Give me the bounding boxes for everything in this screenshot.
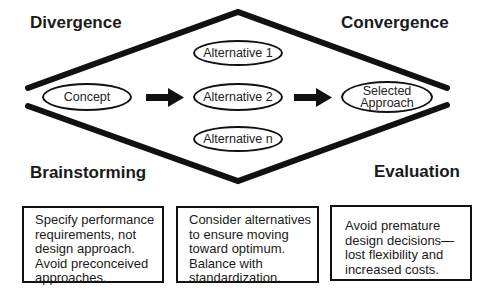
note-line: standardization.	[189, 271, 317, 286]
convergence-heading: Convergence	[341, 13, 449, 33]
note-line: increased costs.	[345, 263, 470, 278]
alternatives-note-box: Consider alternatives to ensure moving t…	[176, 206, 319, 283]
note-line: Balance with	[189, 257, 317, 272]
note-line: Consider alternatives	[189, 213, 317, 228]
evaluation-heading: Evaluation	[374, 162, 460, 182]
alternative-n-node: Alternative n	[193, 126, 283, 152]
arrow-right-icon	[294, 88, 332, 107]
note-line: requirements, not	[35, 228, 162, 243]
brainstorming-note-box: Specify performance requirements, not de…	[22, 206, 164, 283]
brainstorming-heading: Brainstorming	[30, 163, 146, 183]
note-line: design decisions—	[345, 234, 470, 249]
note-line: Specify performance	[35, 213, 162, 228]
note-line: toward optimum.	[189, 242, 317, 257]
note-line: Avoid premature	[345, 219, 470, 234]
alternative-2-node: Alternative 2	[193, 83, 283, 111]
selected-approach-node: Selected Approach	[341, 81, 433, 113]
arrow-right-icon	[146, 88, 184, 107]
note-line: Avoid preconceived	[35, 257, 162, 272]
alternative-1-node: Alternative 1	[193, 40, 283, 66]
note-line: to ensure moving	[189, 228, 317, 243]
evaluation-note-box: Avoid premature design decisions— lost f…	[330, 205, 472, 281]
divergence-heading: Divergence	[30, 13, 122, 33]
note-line: design approach.	[35, 242, 162, 257]
note-line: approaches.	[35, 271, 162, 286]
note-line: lost flexibility and	[345, 248, 470, 263]
concept-node: Concept	[42, 83, 132, 111]
selected-label-line2: Approach	[360, 97, 414, 109]
